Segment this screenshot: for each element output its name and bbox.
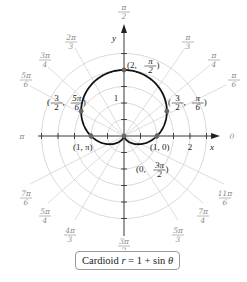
svg-text:): ): [165, 164, 168, 174]
point-marker: [89, 134, 94, 139]
svg-text:2: 2: [121, 12, 127, 21]
point-label-1-pi: (1, π): [73, 142, 93, 152]
svg-text:2: 2: [148, 65, 153, 75]
svg-text:): ): [83, 97, 86, 107]
fraction-label: 32: [172, 93, 184, 112]
svg-text:7π: 7π: [198, 207, 209, 216]
svg-text:,: ,: [63, 97, 65, 107]
angle-label-45: π4: [208, 51, 220, 69]
svg-text:(2,: (2,: [127, 60, 137, 70]
fraction-label: 3π2: [153, 160, 165, 179]
svg-text:3π: 3π: [119, 237, 130, 246]
svg-text:,: ,: [184, 97, 186, 107]
caption-theta: θ: [168, 255, 173, 266]
svg-text:6: 6: [24, 80, 29, 89]
svg-text:(: (: [47, 97, 50, 107]
svg-text:π: π: [185, 33, 192, 42]
angle-label-90: π2: [118, 3, 130, 21]
svg-text:2: 2: [175, 102, 180, 112]
caption-name: Cardioid: [82, 255, 119, 266]
point-label-2-pi-2: (2, π2): [127, 56, 159, 75]
axes: [38, 24, 220, 236]
polar-grid: [30, 48, 226, 220]
svg-text:11π: 11π: [218, 189, 234, 198]
svg-text:6: 6: [24, 198, 29, 207]
svg-text:3: 3: [176, 235, 181, 244]
angle-label-270: 3π2: [118, 237, 130, 250]
angle-labels: 0π6π4π3π22π33π45π6π7π65π44π33π25π37π411π…: [19, 3, 240, 250]
angle-label-60: π3: [182, 33, 194, 51]
angle-label-240: 4π3: [64, 226, 76, 244]
svg-text:2: 2: [157, 169, 162, 179]
point-label-3-2-pi-6: (32, π6): [168, 93, 207, 112]
svg-text:2: 2: [121, 246, 127, 250]
svg-text:3: 3: [69, 42, 74, 51]
angle-label-225: 5π4: [39, 207, 51, 225]
angle-label-135: 3π4: [39, 51, 51, 69]
svg-text:5π: 5π: [40, 207, 51, 216]
angle-label-210: 7π6: [20, 189, 32, 207]
angle-label-0: 0: [230, 132, 235, 141]
fraction-label: π2: [144, 56, 156, 75]
point-label-1-0: (1, 0): [150, 142, 170, 152]
grid-spoke: [124, 136, 224, 184]
svg-text:(: (: [168, 97, 171, 107]
svg-text:4π: 4π: [64, 226, 76, 235]
svg-text:3π: 3π: [40, 51, 51, 60]
svg-text:5π: 5π: [21, 71, 32, 80]
point-marker: [122, 68, 127, 73]
angle-label-315: 7π4: [197, 207, 209, 225]
angle-label-330: 11π6: [218, 189, 234, 207]
svg-text:3: 3: [68, 235, 73, 244]
svg-text:5π: 5π: [173, 226, 184, 235]
y-axis-label: y: [111, 33, 116, 43]
svg-text:(0,: (0,: [136, 164, 146, 174]
svg-text:2: 2: [54, 102, 59, 112]
svg-text:3: 3: [186, 42, 191, 51]
angle-label-300: 5π3: [172, 226, 184, 244]
svg-text:6: 6: [232, 80, 237, 89]
x-axis-label: x: [209, 142, 214, 152]
caption-box: Cardioid r = 1 + sin θ: [75, 251, 180, 270]
x-axis-arrow-icon: [211, 133, 220, 139]
angle-label-30: π6: [228, 71, 240, 89]
svg-text:π: π: [121, 3, 128, 12]
polar-chart: 0π6π4π3π22π33π45π6π7π65π44π33π25π37π411π…: [0, 0, 247, 250]
svg-text:6: 6: [223, 198, 228, 207]
caption-equation: = 1 + sin: [125, 255, 167, 266]
svg-text:): ): [156, 60, 159, 70]
point-marker: [122, 134, 127, 139]
radial-tick-1: 1: [114, 93, 119, 103]
svg-text:7π: 7π: [21, 189, 32, 198]
svg-text:4: 4: [200, 216, 206, 225]
point-marker: [79, 109, 84, 114]
svg-text:2π: 2π: [65, 33, 77, 42]
svg-text:π: π: [211, 51, 218, 60]
point-marker: [164, 109, 169, 114]
svg-text:): ): [204, 97, 207, 107]
svg-text:π: π: [231, 71, 238, 80]
svg-text:6: 6: [196, 102, 201, 112]
svg-text:6: 6: [75, 102, 80, 112]
radial-tick-2: 2: [188, 142, 193, 152]
angle-label-180: π: [19, 132, 26, 141]
svg-text:4: 4: [42, 216, 48, 225]
y-axis-arrow-icon: [121, 24, 127, 33]
point-marker: [155, 134, 160, 139]
svg-text:4: 4: [42, 60, 48, 69]
svg-text:4: 4: [211, 60, 217, 69]
